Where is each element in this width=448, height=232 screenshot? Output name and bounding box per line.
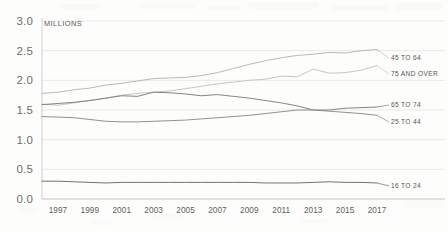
x-axis-tick-label: 2007 bbox=[208, 206, 227, 215]
y-axis-tick-label: 2.0 bbox=[16, 74, 33, 86]
series-label-45-to-64: 45 TO 64 bbox=[391, 54, 421, 61]
x-axis-tick-label: 2005 bbox=[176, 206, 195, 215]
line-chart: 3.02.52.01.51.00.50.0 199719992001200320… bbox=[0, 0, 448, 232]
x-axis-tick-label: 2011 bbox=[272, 206, 290, 215]
chart-canvas: 3.02.52.01.51.00.50.0 199719992001200320… bbox=[0, 0, 448, 232]
series-label-16-to-24: 16 TO 24 bbox=[391, 182, 421, 189]
series-line-65-to-74 bbox=[42, 92, 377, 110]
gridlines bbox=[42, 21, 445, 199]
y-axis-tick-label: 1.5 bbox=[16, 104, 33, 116]
x-axis-tick-labels: 1997199920012003200520072009201120132015… bbox=[49, 206, 387, 215]
x-axis-tick-label: 2009 bbox=[240, 206, 259, 215]
series-line-25-to-44 bbox=[42, 110, 377, 122]
axis-lines bbox=[42, 18, 445, 199]
series-label-65-to-74: 65 TO 74 bbox=[391, 101, 421, 108]
series-leader-line bbox=[377, 105, 389, 107]
series-leader-line bbox=[377, 115, 389, 122]
y-axis-tick-label: 1.0 bbox=[16, 134, 33, 146]
x-axis-tick-label: 2015 bbox=[336, 206, 355, 215]
series-leader-line bbox=[377, 66, 389, 75]
series-label-25-to-44: 25 TO 44 bbox=[391, 118, 421, 125]
series-line-16-to-24 bbox=[42, 181, 377, 183]
series-label-75-and-over: 75 AND OVER bbox=[391, 70, 438, 77]
x-axis-tick-label: 2003 bbox=[144, 206, 163, 215]
x-axis-tick-label: 1999 bbox=[81, 206, 100, 215]
y-axis-tick-label: 3.0 bbox=[16, 15, 33, 27]
data-series-group bbox=[42, 49, 377, 183]
series-line-45-to-64 bbox=[42, 49, 377, 93]
x-axis-tick-label: 2001 bbox=[112, 206, 131, 215]
y-axis-tick-label: 0.5 bbox=[16, 163, 33, 175]
series-line-75-and-over bbox=[42, 66, 377, 106]
x-axis-tick-label: 2017 bbox=[368, 206, 387, 215]
y-axis-unit-label: MILLIONS bbox=[44, 19, 82, 28]
series-label-group: 45 TO 6475 AND OVER65 TO 7425 TO 4416 TO… bbox=[377, 49, 438, 189]
y-axis-tick-label: 2.5 bbox=[16, 45, 33, 57]
y-axis-tick-labels: 3.02.52.01.51.00.50.0 bbox=[16, 15, 33, 205]
x-axis-tick-label: 2013 bbox=[304, 206, 323, 215]
x-axis-tick-label: 1997 bbox=[49, 206, 68, 215]
series-leader-line bbox=[377, 183, 389, 186]
y-axis-tick-label: 0.0 bbox=[16, 193, 33, 205]
